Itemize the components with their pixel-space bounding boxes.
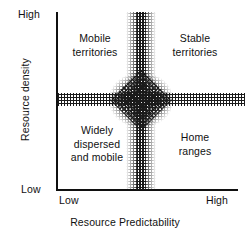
horizontal-transition-band — [57, 93, 245, 106]
quadrant-diagram: Mobile territories Stable territories Wi… — [0, 0, 250, 237]
quadrant-label-mobile-territories: Mobile territories — [60, 32, 130, 59]
quadrant-label-home-ranges: Home ranges — [158, 131, 232, 158]
x-axis-title: Resource Predictability — [0, 216, 250, 229]
intersection-diamond — [106, 70, 176, 130]
y-axis-title: Resource density — [19, 15, 32, 185]
y-axis-tick-low: Low — [21, 183, 41, 195]
quadrant-label-widely-dispersed-and-mobile: Widely dispersed and mobile — [58, 124, 136, 165]
x-axis-line — [56, 189, 238, 191]
x-axis-tick-high: High — [206, 194, 228, 206]
quadrant-label-stable-territories: Stable territories — [158, 32, 232, 59]
x-axis-tick-low: Low — [59, 194, 79, 206]
